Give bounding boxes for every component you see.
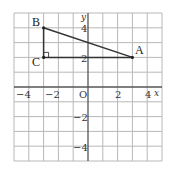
point-c [42,56,45,59]
point-a [131,56,134,59]
x-tick-label: −4 [16,89,31,100]
y-tick-label: 4 [81,23,87,34]
axes [14,13,162,161]
y-tick-label: 2 [81,53,87,64]
point-b [42,26,45,29]
coordinate-grid-diagram: A B C y x O −4 −2 2 4 4 2 −2 −4 [0,0,176,174]
point-label-b: B [32,15,40,29]
point-label-c: C [32,55,40,69]
x-axis-label: x [154,88,159,98]
y-axis-label: y [80,12,87,22]
x-tick-label: 2 [115,89,121,100]
y-tick-label: −4 [73,142,88,153]
x-tick-label: 4 [145,89,151,100]
point-label-a: A [135,43,144,57]
x-tick-label: −2 [45,89,60,100]
origin-label: O [79,89,87,100]
y-tick-label: −2 [73,112,88,123]
